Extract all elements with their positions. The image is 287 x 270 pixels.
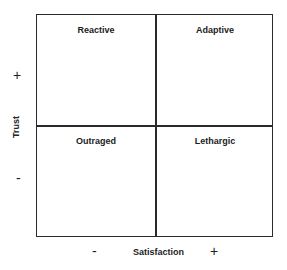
x-axis-label: Satisfaction xyxy=(133,247,184,257)
quadrant-label-top-right: Adaptive xyxy=(156,25,274,35)
quadrant-label-bottom-left: Outraged xyxy=(37,136,155,146)
x-axis-low-sign: - xyxy=(92,244,97,258)
quadrant-label-bottom-right: Lethargic xyxy=(156,136,274,146)
horizontal-divider xyxy=(36,125,273,127)
quadrant-label-top-left: Reactive xyxy=(37,25,155,35)
y-axis-high-sign: + xyxy=(13,68,21,82)
x-axis-high-sign: + xyxy=(210,244,218,258)
y-axis-label: Trust xyxy=(11,115,21,139)
y-axis-low-sign: - xyxy=(16,171,21,185)
